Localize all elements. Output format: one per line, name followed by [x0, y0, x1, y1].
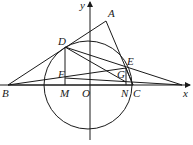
label-a: A	[107, 7, 115, 19]
label-y-axis: y	[79, 0, 85, 11]
label-x-axis: x	[182, 87, 188, 99]
geometry-diagram: A B C D E F G M N O x y	[0, 0, 193, 145]
segment-be	[8, 68, 126, 85]
label-d: D	[57, 35, 66, 47]
label-c: C	[133, 87, 141, 99]
label-e: E	[126, 55, 134, 67]
label-n: N	[120, 87, 129, 99]
label-g: G	[117, 68, 125, 80]
label-b: B	[2, 87, 9, 99]
label-m: M	[59, 87, 70, 99]
label-o: O	[82, 87, 90, 99]
label-f: F	[57, 68, 65, 80]
